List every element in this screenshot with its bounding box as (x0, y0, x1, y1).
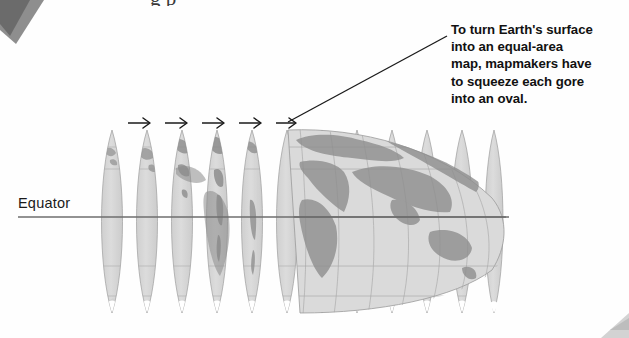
gore (131, 130, 163, 313)
arrow-group (128, 118, 296, 128)
callout-line: to squeeze each gore (451, 73, 629, 90)
callout-line: To turn Earth's surface (451, 21, 629, 38)
right-arrow-icon (128, 118, 150, 128)
page-corner-artifact-bottom-right (601, 313, 629, 338)
equator-label: Equator (18, 195, 70, 211)
callout-line: into an oval. (451, 90, 629, 107)
right-arrow-icon (165, 118, 187, 128)
right-arrow-icon (202, 118, 224, 128)
callout-annotation: To turn Earth's surface into an equal-ar… (451, 21, 629, 107)
callout-leader-line (288, 36, 447, 122)
callout-line: map, mapmakers have (451, 55, 629, 72)
merged-oval-globe (285, 128, 506, 315)
right-arrow-icon (239, 118, 261, 128)
gore (96, 130, 128, 313)
gore-group (96, 128, 506, 315)
gore (166, 130, 198, 313)
page-corner-artifact-top-left (0, 0, 44, 44)
gore (236, 130, 268, 313)
callout-line: into an equal-area (451, 38, 629, 55)
figure-canvas: g p (0, 0, 629, 338)
